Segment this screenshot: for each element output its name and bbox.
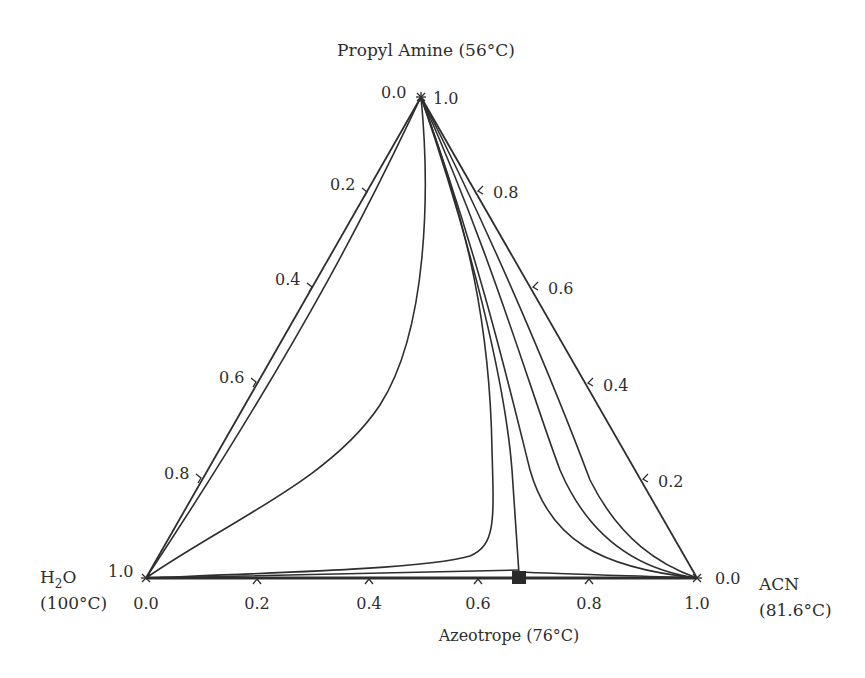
left-edge-tick-labels: 0.2 0.4 0.6 0.8	[164, 175, 355, 483]
left-vertex-star-icon	[141, 574, 151, 582]
left-tick-label: 0.4	[275, 270, 300, 289]
top-vertex-star-icon	[416, 92, 426, 102]
bottom-edge-ticks	[253, 579, 593, 584]
right-edge	[421, 97, 697, 578]
left-tick-label: 0.8	[164, 464, 189, 483]
subscript-2: 2	[55, 577, 63, 591]
top-vertex-label: Propyl Amine (56°C)	[337, 40, 515, 60]
right-tick-label: 0.4	[603, 376, 628, 395]
bottom-tick-label: 1.0	[684, 594, 709, 613]
right-vertex-temp: (81.6°C)	[759, 600, 832, 620]
top-vertex-right-value: 1.0	[433, 89, 458, 108]
triangle-frame	[146, 97, 697, 578]
right-tick-label: 0.6	[548, 279, 573, 298]
ternary-diagram: 0.2 0.4 0.6 0.8 0.8 0.6 0.4 0.2 0.0 0.2 …	[0, 0, 865, 678]
right-vertex-value: 0.0	[715, 569, 740, 588]
residue-curves	[146, 97, 697, 578]
azeotrope-marker	[512, 571, 526, 584]
residue-curve-r1	[146, 97, 493, 578]
left-edge-ticks	[196, 188, 367, 483]
vertex-markers	[141, 92, 702, 582]
o-symbol: O	[62, 567, 76, 587]
bottom-tick-label: 0.6	[465, 594, 490, 613]
residue-curve-r2-separatrix	[421, 97, 519, 574]
right-tick-label: 0.8	[493, 183, 518, 202]
left-vertex-label: H2O	[40, 567, 76, 591]
bottom-tick-label: 0.4	[356, 594, 381, 613]
left-vertex-temp: (100°C)	[40, 593, 107, 613]
bottom-edge-tick-labels: 0.0 0.2 0.4 0.6 0.8 1.0	[133, 594, 709, 613]
right-vertex-label: ACN	[758, 574, 799, 594]
right-vertex-star-icon	[692, 574, 702, 582]
azeotrope-label: Azeotrope (76°C)	[438, 626, 580, 645]
h-symbol: H	[40, 567, 55, 587]
right-edge-tick-labels: 0.8 0.6 0.4 0.2	[493, 183, 683, 491]
right-edge-ticks	[478, 186, 648, 482]
bottom-tick-label: 0.0	[133, 594, 158, 613]
left-tick-label: 0.2	[330, 175, 355, 194]
top-vertex-left-value: 0.0	[381, 83, 406, 102]
left-vertex-value: 1.0	[108, 562, 133, 581]
left-edge	[146, 97, 421, 578]
right-tick-label: 0.2	[658, 472, 683, 491]
bottom-tick-label: 0.8	[576, 594, 601, 613]
bottom-tick-label: 0.2	[244, 594, 269, 613]
left-tick-label: 0.6	[219, 368, 244, 387]
